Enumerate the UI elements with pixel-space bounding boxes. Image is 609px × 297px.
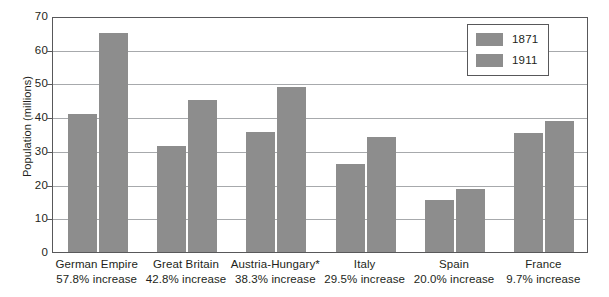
bar-group [157,18,217,252]
y-axis-tick-marks [0,17,52,253]
bar [425,200,454,252]
x-axis-labels: German Empire57.8% increaseGreat Britain… [52,257,588,297]
legend-label: 1871 [512,33,538,46]
bar-group [68,18,128,252]
bar [246,132,275,252]
bar [188,100,217,252]
category-name: France [483,257,603,272]
bar-group [336,18,396,252]
legend-item: 1911 [476,52,538,69]
bar [277,87,306,252]
bar [68,114,97,252]
legend-item: 1871 [476,31,538,48]
bar [336,164,365,252]
bar [514,133,543,252]
legend-swatch-icon [476,33,503,46]
legend: 18711911 [467,24,549,76]
bar-group [246,18,306,252]
bar [456,189,485,252]
legend-label: 1911 [512,54,538,67]
bar [99,33,128,252]
x-axis-category-label: France9.7% increase [483,257,603,287]
category-increase: 9.7% increase [483,272,603,287]
bar-chart: Population (millions) 010203040506070 18… [0,0,609,297]
bar [545,121,574,252]
legend-swatch-icon [476,54,503,67]
bar [157,146,186,252]
bar [367,137,396,252]
